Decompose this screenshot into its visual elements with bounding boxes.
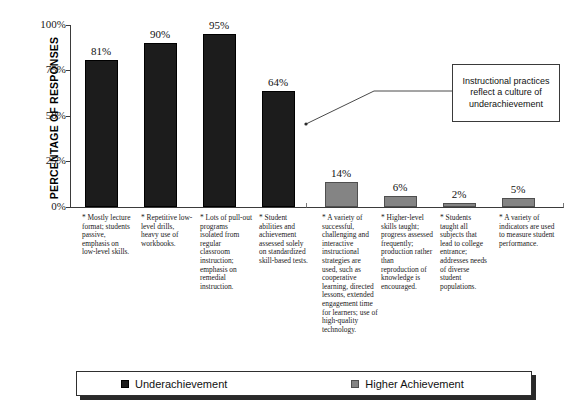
category-label-4: * Student abilities and achievement asse… bbox=[259, 214, 311, 266]
bar-value-5: 14% bbox=[316, 167, 366, 179]
bar-value-3: 95% bbox=[194, 19, 244, 31]
legend-item-higher-achievement[interactable]: Higher Achievement bbox=[351, 378, 463, 390]
bar-value-2: 90% bbox=[135, 28, 185, 40]
y-tick-75: 75% bbox=[30, 64, 66, 75]
category-label-5: * A variety of successful, challenging a… bbox=[322, 214, 378, 334]
legend-item-underachievement[interactable]: Underachievement bbox=[121, 378, 227, 390]
bar-value-7: 2% bbox=[434, 188, 484, 200]
legend-swatch-icon-higher-achievement bbox=[351, 380, 359, 388]
bar-value-1: 81% bbox=[76, 45, 126, 57]
callout-text: Instructional practices reflect a cultur… bbox=[453, 76, 559, 111]
callout-box[interactable]: Instructional practices reflect a cultur… bbox=[452, 64, 560, 122]
bar-higher-achievement-1[interactable] bbox=[325, 182, 358, 207]
category-label-2: * Repetitive low-level drills, heavy use… bbox=[141, 214, 193, 248]
legend-swatch-icon-underachievement bbox=[121, 380, 129, 388]
bar-underachievement-3[interactable] bbox=[203, 34, 236, 207]
category-label-6: * Higher-level skills taught; progress a… bbox=[381, 214, 433, 291]
y-tick-50: 50% bbox=[30, 110, 66, 121]
legend-label-underachievement: Underachievement bbox=[135, 378, 227, 390]
bar-underachievement-1[interactable] bbox=[85, 60, 118, 207]
bar-higher-achievement-4[interactable] bbox=[502, 198, 535, 207]
y-axis-tick-labels: 100% 75% 50% 25% 0% bbox=[26, 0, 66, 405]
y-tick-25: 25% bbox=[30, 155, 66, 166]
category-label-7: * Students taught all subjects that lead… bbox=[440, 214, 490, 291]
category-label-8: * A variety of indicators are used to me… bbox=[499, 214, 555, 248]
bar-higher-achievement-3[interactable] bbox=[443, 203, 476, 207]
legend-label-higher-achievement: Higher Achievement bbox=[365, 378, 463, 390]
bar-higher-achievement-2[interactable] bbox=[384, 196, 417, 207]
bar-chart: PERCENTAGE OF RESPONSES 100% 75% 50% 25%… bbox=[0, 0, 576, 405]
bar-underachievement-4[interactable] bbox=[262, 91, 295, 207]
legend: Underachievement Higher Achievement bbox=[76, 371, 532, 396]
bar-value-8: 5% bbox=[493, 183, 543, 195]
bar-value-6: 6% bbox=[375, 181, 425, 193]
y-tick-100: 100% bbox=[30, 19, 66, 30]
category-label-1: * Mostly lecture format; students passiv… bbox=[82, 214, 134, 257]
category-label-3: * Lots of pull-out programs isolated fro… bbox=[200, 214, 252, 291]
bar-underachievement-2[interactable] bbox=[144, 43, 177, 207]
bar-value-4: 64% bbox=[253, 76, 303, 88]
y-tick-0: 0% bbox=[30, 201, 66, 212]
